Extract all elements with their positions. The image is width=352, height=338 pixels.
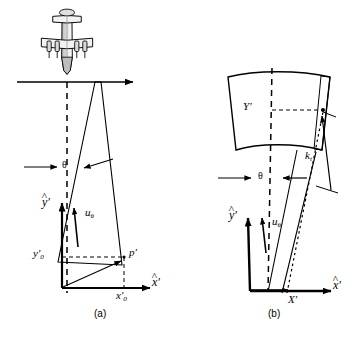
u-theta-vector-b — [262, 218, 266, 253]
y-axis-b — [248, 218, 250, 291]
y-axis-label-b: ^y' — [229, 209, 237, 221]
y-axis-label-a: ^y' — [42, 196, 50, 208]
panel-b-group — [218, 68, 338, 293]
theta-label-b: θ — [258, 171, 263, 181]
x-axis-label-b: ^x' — [333, 279, 341, 291]
nadir-dashed-line-b — [268, 68, 272, 292]
Y-prime-label-b: Y' — [243, 101, 251, 112]
point-p-label-a: p' — [129, 247, 137, 258]
beam-edge-b-dotted — [287, 112, 323, 293]
caption-b: (b) — [268, 308, 280, 319]
x-axis-label-a: ^x' — [152, 276, 160, 288]
kt-leader-bottom — [316, 186, 338, 193]
aircraft-top-view-icon — [41, 9, 92, 74]
X-prime-label-b: X' — [288, 294, 297, 305]
theta-arrow-right — [84, 159, 113, 168]
u-theta-vector-a — [74, 208, 78, 247]
position-vector-a — [63, 261, 121, 287]
x0-label-a: x'0 — [116, 290, 127, 303]
kt-leader-top — [323, 112, 336, 117]
kt-indicator-line — [322, 116, 331, 190]
point-p-marker-a — [122, 255, 125, 258]
footprint-subcell-strip — [314, 76, 330, 150]
caption-a: (a) — [94, 308, 106, 319]
figure-container: ^y' ^x' θ uθ p' y'0 x'0 (a) Y' kt θ ^y' … — [0, 0, 352, 338]
y0-label-a: y'0 — [33, 248, 44, 261]
figure-drawing — [0, 0, 352, 338]
footprint-point-marker — [321, 108, 325, 112]
kt-label-b: kt — [305, 150, 312, 163]
theta-label-a: θ — [62, 160, 67, 170]
u-theta-label-b: uθ — [272, 216, 281, 229]
u-theta-label-a: uθ — [85, 207, 94, 220]
